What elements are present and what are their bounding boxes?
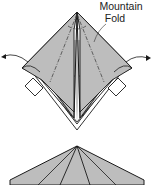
origami-diagram [0,0,151,185]
step-bottom-figure [10,146,144,185]
mountain-fold-label: Mountain [94,1,148,12]
mountain-fold-label-line2: Fold [100,13,130,24]
arrow-right-icon [126,55,151,62]
arrow-left-icon [1,54,28,62]
step-top-figure [1,12,151,130]
